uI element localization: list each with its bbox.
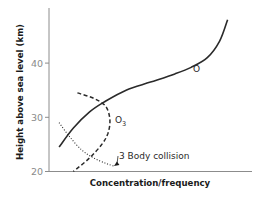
y-tick-label: 20	[31, 166, 43, 177]
annotation-arrowhead	[114, 162, 120, 167]
y-ticks: 203040	[31, 58, 49, 177]
x-axis-title: Concentration/frequency	[90, 178, 211, 188]
y-axis-title: Height above sea level (km)	[15, 24, 25, 160]
series-layer	[59, 20, 228, 172]
y-tick-label: 30	[31, 112, 43, 123]
y-tick-label: 40	[31, 58, 43, 69]
series-line-3-body-collision	[59, 123, 114, 166]
series-label-o: O	[193, 64, 200, 74]
series-label-o3: O3	[115, 115, 126, 128]
series-line-o	[59, 20, 228, 147]
chart: 203040 OO33 Body collision Height above …	[0, 0, 265, 197]
series-label-o3-subscript: 3	[122, 120, 126, 128]
series-line-o3	[73, 93, 110, 172]
axes	[49, 8, 252, 172]
annotation-3-body-collision: 3 Body collision	[119, 151, 190, 161]
